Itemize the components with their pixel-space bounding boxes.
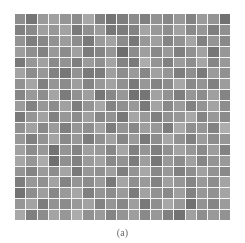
mosaic-cell [140, 156, 150, 166]
mosaic-cell [15, 145, 25, 155]
mosaic-cell [163, 36, 173, 46]
mosaic-cell [220, 90, 230, 100]
mosaic-cell [220, 47, 230, 57]
mosaic-cell [60, 134, 70, 144]
mosaic-cell [83, 112, 93, 122]
mosaic-cell [49, 156, 59, 166]
mosaic-cell [186, 188, 196, 198]
mosaic-cell [60, 123, 70, 133]
mosaic-cell [129, 123, 139, 133]
mosaic-cell [186, 58, 196, 68]
mosaic-cell [186, 177, 196, 187]
mosaic-cell [83, 145, 93, 155]
mosaic-cell [38, 177, 48, 187]
mosaic-cell [38, 210, 48, 220]
mosaic-cell [163, 14, 173, 24]
mosaic-cell [38, 156, 48, 166]
mosaic-cell [106, 188, 116, 198]
mosaic-cell [208, 199, 218, 209]
mosaic-cell [72, 156, 82, 166]
mosaic-cell [83, 68, 93, 78]
mosaic-cell [151, 58, 161, 68]
mosaic-cell [15, 123, 25, 133]
mosaic-cell [15, 134, 25, 144]
mosaic-cell [208, 177, 218, 187]
mosaic-cell [60, 177, 70, 187]
mosaic-cell [163, 25, 173, 35]
mosaic-cell [186, 14, 196, 24]
mosaic-cell [186, 101, 196, 111]
mosaic-cell [186, 79, 196, 89]
mosaic-cell [95, 188, 105, 198]
mosaic-cell [72, 210, 82, 220]
mosaic-cell [72, 47, 82, 57]
mosaic-cell [129, 167, 139, 177]
mosaic-cell [106, 199, 116, 209]
mosaic-cell [95, 167, 105, 177]
mosaic-cell [140, 188, 150, 198]
mosaic-cell [174, 210, 184, 220]
mosaic-cell [60, 101, 70, 111]
mosaic-cell [163, 210, 173, 220]
mosaic-cell [117, 210, 127, 220]
mosaic-cell [140, 25, 150, 35]
mosaic-cell [151, 199, 161, 209]
mosaic-cell [38, 90, 48, 100]
mosaic-cell [60, 14, 70, 24]
mosaic-cell [106, 123, 116, 133]
mosaic-cell [49, 47, 59, 57]
mosaic-cell [163, 101, 173, 111]
mosaic-cell [208, 134, 218, 144]
mosaic-cell [197, 68, 207, 78]
mosaic-cell [26, 210, 36, 220]
mosaic-cell [106, 167, 116, 177]
figure-root: (a) [0, 0, 245, 243]
mosaic-cell [151, 25, 161, 35]
mosaic-cell [174, 79, 184, 89]
mosaic-cell [83, 199, 93, 209]
mosaic-cell [38, 101, 48, 111]
mosaic-cell [197, 145, 207, 155]
mosaic-cell [140, 210, 150, 220]
mosaic-cell [197, 90, 207, 100]
mosaic-cell [197, 134, 207, 144]
mosaic-cell [117, 156, 127, 166]
mosaic-cell [60, 210, 70, 220]
mosaic-cell [197, 112, 207, 122]
mosaic-cell [72, 68, 82, 78]
mosaic-cell [220, 134, 230, 144]
mosaic-cell [15, 156, 25, 166]
mosaic-cell [106, 47, 116, 57]
mosaic-cell [220, 101, 230, 111]
mosaic-cell [208, 90, 218, 100]
mosaic-cell [140, 68, 150, 78]
mosaic-cell [140, 145, 150, 155]
mosaic-cell [151, 134, 161, 144]
mosaic-cell [220, 177, 230, 187]
mosaic-cell [83, 134, 93, 144]
mosaic-cell [95, 177, 105, 187]
mosaic-cell [38, 199, 48, 209]
mosaic-cell [72, 112, 82, 122]
mosaic-cell [117, 25, 127, 35]
mosaic-cell [72, 199, 82, 209]
mosaic-cell [208, 210, 218, 220]
mosaic-cell [220, 167, 230, 177]
mosaic-cell [220, 188, 230, 198]
mosaic-cell [49, 112, 59, 122]
mosaic-cell [117, 68, 127, 78]
mosaic-cell [140, 199, 150, 209]
mosaic-cell [95, 36, 105, 46]
mosaic-cell [15, 25, 25, 35]
mosaic-cell [197, 58, 207, 68]
mosaic-cell [151, 156, 161, 166]
mosaic-cell [208, 156, 218, 166]
mosaic-cell [140, 177, 150, 187]
mosaic-cell [174, 145, 184, 155]
mosaic-cell [49, 123, 59, 133]
mosaic-cell [197, 123, 207, 133]
mosaic-cell [151, 79, 161, 89]
mosaic-cell [163, 177, 173, 187]
mosaic-cell [106, 112, 116, 122]
mosaic-cell [197, 156, 207, 166]
